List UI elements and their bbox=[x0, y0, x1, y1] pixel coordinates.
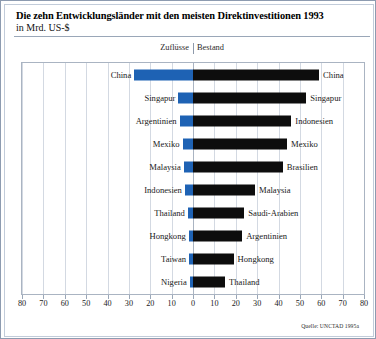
column-header-stock: Bestand bbox=[197, 43, 257, 53]
chart-row: NigeriaThailand bbox=[22, 271, 364, 294]
chart-row: TaiwanHongkong bbox=[22, 248, 364, 271]
bar-stock bbox=[193, 115, 291, 126]
bar-label-inflow: Mexiko bbox=[153, 139, 180, 149]
bar-inflow bbox=[185, 185, 193, 196]
chart-row: SingapurSingapur bbox=[22, 86, 364, 109]
bar-label-stock: Malaysia bbox=[259, 185, 291, 195]
bar-label-inflow: Nigeria bbox=[161, 277, 187, 287]
bar-stock bbox=[193, 254, 234, 265]
bar-label-stock: Indonesien bbox=[295, 116, 333, 126]
gridline bbox=[364, 63, 365, 294]
chart-row: ThailandSaudi-Arabien bbox=[22, 202, 364, 225]
chart-card-inner: Die zehn Entwicklungsländer mit den meis… bbox=[4, 4, 374, 337]
bar-stock bbox=[193, 69, 319, 80]
bar-stock bbox=[193, 185, 255, 196]
bar-stock bbox=[193, 208, 244, 219]
source-note: Quelle: UNCTAD 1995a bbox=[301, 323, 359, 330]
page-subtitle: in Mrd. US-$ bbox=[16, 22, 70, 34]
bar-label-inflow: Singapur bbox=[144, 93, 175, 103]
axis-tick-labels: 807060504030201001020304050607080 bbox=[5, 299, 376, 311]
bar-label-stock: Mexiko bbox=[291, 139, 318, 149]
bar-label-inflow: Malaysia bbox=[149, 162, 181, 172]
chart-row: HongkongArgentinien bbox=[22, 225, 364, 248]
bar-label-stock: Thailand bbox=[229, 277, 260, 287]
bar-label-inflow: Taiwan bbox=[161, 254, 186, 264]
bar-stock bbox=[193, 161, 283, 172]
bar-label-stock: Argentinien bbox=[246, 231, 287, 241]
bar-inflow bbox=[180, 115, 193, 126]
bar-label-inflow: Indonesien bbox=[144, 185, 182, 195]
chart-row: IndonesienMalaysia bbox=[22, 179, 364, 202]
chart-plot-area: ChinaChinaSingapurSingapurArgentinienInd… bbox=[21, 62, 365, 295]
chart-row: ArgentinienIndonesien bbox=[22, 109, 364, 132]
bar-stock bbox=[193, 277, 225, 288]
bar-label-stock: Saudi-Arabien bbox=[248, 208, 298, 218]
bar-inflow bbox=[184, 161, 193, 172]
bar-stock bbox=[193, 138, 287, 149]
column-header-divider bbox=[193, 43, 194, 54]
chart-row: MalaysiaBrasilien bbox=[22, 155, 364, 178]
bar-label-inflow: Thailand bbox=[154, 208, 185, 218]
chart-row: MexikoMexiko bbox=[22, 132, 364, 155]
bar-stock bbox=[193, 231, 242, 242]
bar-label-inflow: Argentinien bbox=[136, 116, 177, 126]
bar-label-stock: China bbox=[323, 70, 344, 80]
bar-label-stock: Singapur bbox=[310, 93, 341, 103]
bar-label-inflow: China bbox=[111, 70, 132, 80]
column-header-inflow: Zuflüsse bbox=[133, 43, 189, 53]
axis-tick-label: 80 bbox=[350, 299, 376, 309]
bar-inflow bbox=[183, 138, 193, 149]
bar-label-inflow: Hongkong bbox=[149, 231, 185, 241]
bar-inflow bbox=[134, 69, 193, 80]
bar-label-stock: Hongkong bbox=[238, 254, 274, 264]
header-divider bbox=[14, 36, 370, 37]
bar-label-stock: Brasilien bbox=[287, 162, 318, 172]
chart-card: Die zehn Entwicklungsländer mit den meis… bbox=[0, 0, 376, 339]
bar-inflow bbox=[178, 92, 193, 103]
bar-stock bbox=[193, 92, 306, 103]
chart-row: ChinaChina bbox=[22, 63, 364, 86]
page-title: Die zehn Entwicklungsländer mit den meis… bbox=[16, 10, 368, 22]
